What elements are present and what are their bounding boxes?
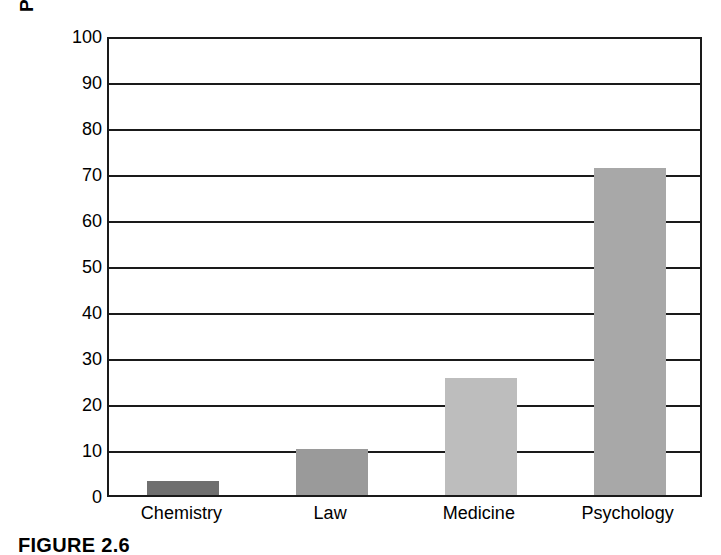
plot-area — [107, 37, 702, 497]
figure-caption: FIGURE 2.6 — [18, 534, 130, 555]
y-tick-label: 80 — [60, 120, 102, 138]
y-tick-label: 50 — [60, 258, 102, 276]
bar — [594, 168, 666, 495]
y-tick-label: 100 — [60, 28, 102, 46]
y-tick-label: 40 — [60, 304, 102, 322]
y-tick-label: 90 — [60, 74, 102, 92]
y-axis-title: Percentage gain in statistical reasoning — [12, 0, 42, 67]
y-tick-label: 10 — [60, 442, 102, 460]
bar — [296, 449, 368, 495]
bar — [147, 481, 219, 495]
figure-container: Percentage gain in statistical reasoning… — [0, 0, 721, 555]
y-axis-tick-labels: 0102030405060708090100 — [60, 37, 102, 497]
x-tick-label: Law — [314, 502, 347, 525]
y-tick-label: 30 — [60, 350, 102, 368]
y-tick-label: 20 — [60, 396, 102, 414]
y-tick-label: 70 — [60, 166, 102, 184]
y-tick-label: 0 — [60, 488, 102, 506]
y-tick-label: 60 — [60, 212, 102, 230]
bars-layer — [109, 39, 700, 495]
x-tick-label: Medicine — [443, 502, 515, 525]
x-tick-label: Chemistry — [141, 502, 222, 525]
x-tick-label: Psychology — [582, 502, 674, 525]
bar — [445, 378, 517, 495]
x-axis-tick-labels: ChemistryLawMedicinePsychology — [107, 502, 702, 530]
